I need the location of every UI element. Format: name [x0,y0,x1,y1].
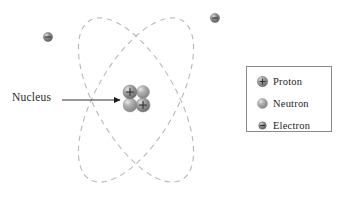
legend-item-proton: Proton [247,70,331,92]
nucleus-particle-neutron-top-right [137,86,150,99]
legend-item-electron: Electron [247,114,331,136]
electron-upper-left [43,32,52,41]
nucleus-cluster [123,85,150,112]
nucleus-particle-neutron-bottom-left [123,98,137,112]
legend-item-neutron: Neutron [247,92,331,114]
legend-label-neutron: Neutron [273,98,309,109]
electron-upper-right [210,13,219,22]
legend-label-electron: Electron [273,120,310,131]
nucleus-particle-proton-top-left [123,85,137,99]
nucleus-particle-proton-bottom-right [136,98,150,112]
nucleus-label: Nucleus [12,91,51,103]
neutron-icon [251,97,273,110]
legend: Proton Neutron [246,66,332,132]
atom-diagram-canvas: Nucleus Proton [0,0,343,200]
proton-icon [251,75,273,88]
legend-label-proton: Proton [273,76,302,87]
electron-icon [251,119,273,132]
